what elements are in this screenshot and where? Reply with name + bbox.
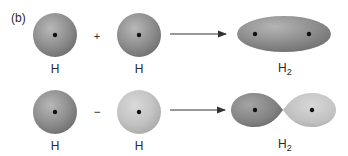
plus-operator: +: [94, 30, 100, 42]
hydrogen-atom-3: H: [33, 90, 77, 153]
nucleus-dot: [253, 108, 257, 112]
minus-operator: −: [93, 105, 100, 119]
row-bonding: H + H H2: [33, 13, 331, 77]
panel-label: (b): [11, 11, 26, 25]
right-lobe-icon: [283, 93, 336, 127]
hydrogen-atom-1: H: [33, 13, 77, 76]
nucleus-dot: [53, 110, 57, 114]
atom-label: H: [51, 139, 60, 153]
nucleus-dot: [137, 33, 141, 37]
nucleus-dot: [53, 33, 57, 37]
nucleus-dot: [310, 108, 314, 112]
molecule-label: H2: [278, 137, 292, 153]
nucleus-dot: [253, 32, 257, 36]
atom-label: H: [51, 62, 60, 76]
h2-antibonding-orbital: H2: [231, 93, 336, 153]
atom-label: H: [135, 139, 144, 153]
h2-bonding-orbital: H2: [237, 16, 331, 77]
hydrogen-atom-4: H: [117, 90, 161, 153]
orbital-diagram: (b) H + H H2 H −: [0, 0, 348, 156]
nucleus-dot: [137, 110, 141, 114]
molecule-label: H2: [278, 61, 292, 77]
atom-label: H: [135, 62, 144, 76]
nucleus-dot: [307, 32, 311, 36]
row-antibonding: H − H H2: [33, 90, 336, 153]
ellipse-orbital-icon: [237, 16, 331, 52]
hydrogen-atom-2: H: [117, 13, 161, 76]
